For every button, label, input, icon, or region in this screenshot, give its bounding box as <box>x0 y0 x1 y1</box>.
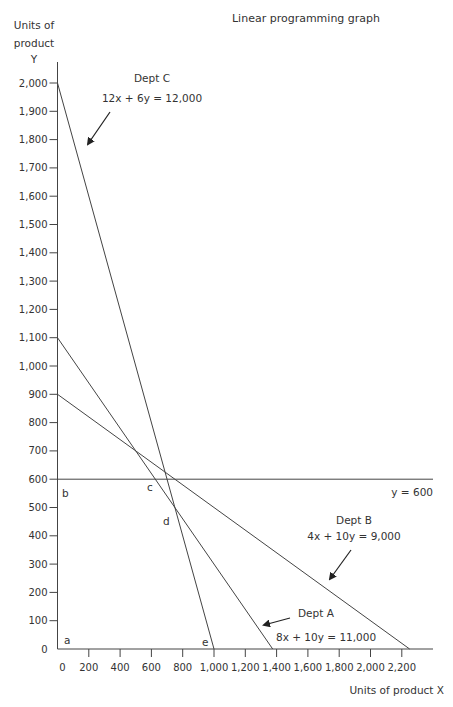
y-tick-label: 800 <box>28 417 47 428</box>
dept-c-label: Dept C <box>134 72 170 84</box>
x-tick-label: 1,000 <box>200 662 229 673</box>
y-tick-label: 600 <box>28 474 47 485</box>
annotations: abcdeDept C12x + 6y = 12,000Dept A8x + 1… <box>62 72 433 648</box>
y-tick-label: 1,700 <box>19 162 48 173</box>
y-600-label: y = 600 <box>391 486 433 498</box>
x-tick-label: 0 <box>59 662 65 673</box>
x-tick-label: 1,400 <box>262 662 291 673</box>
x-tick-label: 2,200 <box>387 662 416 673</box>
x-tick-label: 800 <box>173 662 192 673</box>
y-axis-label-line1: Units of <box>14 19 55 31</box>
dept-b-label: Dept B <box>336 514 372 526</box>
x-tick-label: 1,800 <box>325 662 354 673</box>
line-dept-c <box>58 83 215 649</box>
y-axis-label-line3: Y <box>30 53 38 65</box>
constraint-lines <box>58 83 434 649</box>
y-tick-label: 1,500 <box>19 219 48 230</box>
linear-programming-chart: Linear programming graph Units of produc… <box>0 0 453 707</box>
y-tick-label: 0 <box>41 644 47 655</box>
y-tick-label: 1,200 <box>19 304 48 315</box>
y-tick-label: 300 <box>28 559 47 570</box>
line-dept-a <box>58 338 273 649</box>
y-tick-label: 200 <box>28 587 47 598</box>
dept-a-equation: 8x + 10y = 11,000 <box>276 631 376 643</box>
point-label-d: d <box>163 515 170 527</box>
y-tick-label: 700 <box>28 445 47 456</box>
x-tick-label: 600 <box>142 662 161 673</box>
y-tick-label: 100 <box>28 615 47 626</box>
y-tick-label: 400 <box>28 530 47 541</box>
x-tick-label: 400 <box>111 662 130 673</box>
point-label-e: e <box>202 636 208 648</box>
y-tick-label: 1,400 <box>19 247 48 258</box>
y-tick-label: 1,600 <box>19 191 48 202</box>
x-tick-label: 1,200 <box>231 662 260 673</box>
y-tick-label: 1,100 <box>19 332 48 343</box>
x-axis-label: Units of product X <box>349 684 444 696</box>
y-tick-label: 500 <box>28 502 47 513</box>
point-label-c: c <box>147 481 153 493</box>
y-axis-label-line2: product <box>14 37 54 49</box>
point-label-a: a <box>64 634 70 646</box>
dept-a-label: Dept A <box>298 607 335 619</box>
y-tick-label: 1,800 <box>19 134 48 145</box>
chart-title: Linear programming graph <box>232 12 380 25</box>
y-tick-label: 2,000 <box>19 78 48 89</box>
dept-b-arrow <box>330 550 351 579</box>
x-tick-label: 1,600 <box>294 662 323 673</box>
x-tick-label: 2,000 <box>356 662 385 673</box>
dept-c-arrow <box>88 112 110 144</box>
dept-c-equation: 12x + 6y = 12,000 <box>102 92 202 104</box>
y-tick-label: 1,900 <box>19 106 48 117</box>
x-tick-label: 200 <box>79 662 98 673</box>
y-tick-label: 900 <box>28 389 47 400</box>
y-tick-label: 1,000 <box>19 361 48 372</box>
dept-b-equation: 4x + 10y = 9,000 <box>307 530 400 542</box>
dept-a-arrow <box>264 618 290 625</box>
y-tick-label: 1,300 <box>19 276 48 287</box>
point-label-b: b <box>62 487 69 499</box>
